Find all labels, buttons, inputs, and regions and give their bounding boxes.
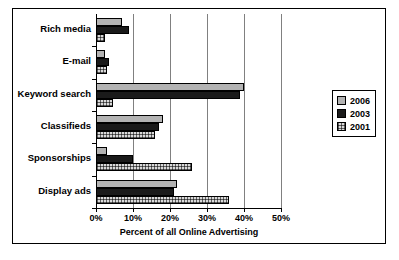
y-tick-mark (92, 46, 96, 47)
y-tick-mark (92, 176, 96, 177)
category-group: E-mail (96, 46, 281, 78)
x-tick-label: 50% (261, 213, 301, 223)
gridline-50% (281, 14, 282, 208)
legend-item-2001: 2001 (337, 120, 370, 133)
bar-2001-e-mail (96, 66, 107, 74)
bar-2003-keyword-search (96, 91, 240, 99)
category-label-sponsorships: Sponsorships (1, 152, 91, 163)
x-tick-mark (244, 208, 245, 212)
x-tick-mark (133, 208, 134, 212)
legend-label-2003: 2003 (350, 109, 370, 119)
bar-chart-figure: Rich mediaE-mailKeyword searchClassified… (0, 0, 399, 260)
bar-2006-display-ads (96, 180, 177, 188)
category-label-rich-media: Rich media (1, 23, 91, 34)
x-tick-mark (207, 208, 208, 212)
bar-2006-rich-media (96, 18, 122, 26)
bar-2003-rich-media (96, 26, 129, 34)
bar-2006-keyword-search (96, 83, 244, 91)
x-tick-mark (96, 208, 97, 212)
legend-swatch-2001-icon (337, 122, 346, 131)
chart-legend: 2006 2003 2001 (332, 90, 376, 137)
bar-2001-sponsorships (96, 163, 192, 171)
bar-2006-classifieds (96, 115, 163, 123)
category-group: Rich media (96, 14, 281, 46)
bar-2001-keyword-search (96, 99, 113, 107)
bar-2003-e-mail (96, 58, 109, 66)
category-group: Classifieds (96, 111, 281, 143)
y-tick-mark (92, 79, 96, 80)
x-axis-line (96, 208, 282, 209)
legend-label-2001: 2001 (350, 122, 370, 132)
bar-2001-display-ads (96, 196, 229, 204)
bar-2003-display-ads (96, 188, 174, 196)
legend-item-2003: 2003 (337, 107, 370, 120)
x-tick-label: 20% (150, 213, 190, 223)
bar-2006-e-mail (96, 50, 105, 58)
legend-swatch-2006-icon (337, 96, 346, 105)
category-label-display-ads: Display ads (1, 185, 91, 196)
legend-label-2006: 2006 (350, 96, 370, 106)
x-tick-mark (170, 208, 171, 212)
bar-2001-rich-media (96, 34, 105, 42)
category-group: Display ads (96, 176, 281, 208)
plot-area: Rich mediaE-mailKeyword searchClassified… (96, 14, 281, 208)
y-tick-mark (92, 208, 96, 209)
category-label-keyword-search: Keyword search (1, 88, 91, 99)
x-tick-label: 10% (113, 213, 153, 223)
x-tick-mark (281, 208, 282, 212)
x-axis-title: Percent of all Online Advertising (96, 227, 282, 237)
bar-2003-sponsorships (96, 155, 133, 163)
x-tick-label: 30% (187, 213, 227, 223)
category-label-classifieds: Classifieds (1, 120, 91, 131)
category-group: Keyword search (96, 79, 281, 111)
legend-swatch-2003-icon (337, 109, 346, 118)
bar-2006-sponsorships (96, 147, 107, 155)
category-group: Sponsorships (96, 143, 281, 175)
bar-2003-classifieds (96, 123, 159, 131)
x-tick-label: 0% (76, 213, 116, 223)
legend-item-2006: 2006 (337, 94, 370, 107)
category-label-e-mail: E-mail (1, 55, 91, 66)
bar-2001-classifieds (96, 131, 155, 139)
x-tick-label: 40% (224, 213, 264, 223)
y-tick-mark (92, 111, 96, 112)
y-tick-mark (92, 143, 96, 144)
